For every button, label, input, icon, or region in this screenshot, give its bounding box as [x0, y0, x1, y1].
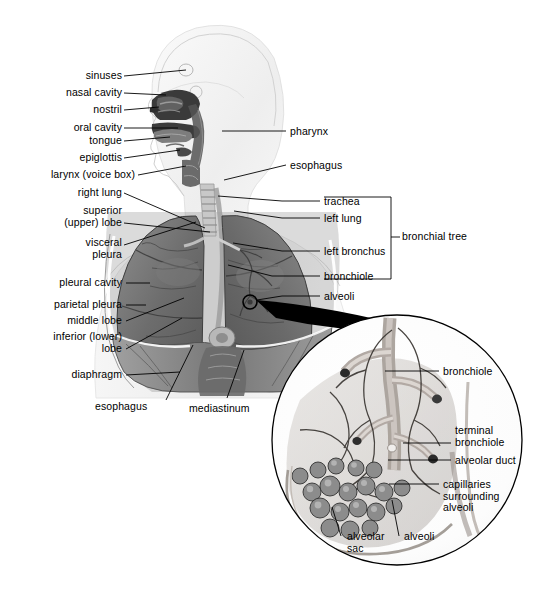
label-terminal-bronchiole: terminal bronchiole — [455, 425, 535, 448]
label-alveoli: alveoli — [404, 531, 452, 543]
label-visceral-pleura: visceral pleura — [30, 237, 122, 260]
label-bronchial-tree: bronchial tree — [402, 231, 467, 243]
label-nostril: nostril — [38, 104, 122, 116]
label-larynx-voice-box: larynx (voice box) — [25, 169, 135, 181]
label-inferior-lower-lobe: inferior (lower) lobe — [24, 331, 122, 354]
label-parietal-pleura: parietal pleura — [24, 299, 122, 311]
respiratory-system-diagram: sinusesnasal cavitynostriloral cavityton… — [0, 0, 546, 599]
label-right-lung: right lung — [28, 187, 122, 199]
label-alveolar-sac: alveolar sac — [347, 531, 399, 554]
label-nasal-cavity: nasal cavity — [18, 87, 122, 99]
label-epiglottis: epiglottis — [26, 152, 122, 164]
label-mediastinum: mediastinum — [189, 403, 265, 415]
label-superior-upper-lobe: superior (upper) lobe — [26, 205, 122, 228]
label-left-lung: left lung — [324, 213, 414, 225]
label-tongue: tongue — [34, 135, 122, 147]
label-capillaries-surrounding-alveoli: capillaries surrounding alveoli — [443, 479, 527, 514]
label-oral-cavity: oral cavity — [24, 122, 122, 134]
label-alveolar-duct: alveolar duct — [455, 455, 541, 467]
label-esophagus: esophagus — [95, 401, 165, 413]
label-left-bronchus: left bronchus — [324, 246, 414, 258]
label-alveoli: alveoli — [324, 291, 394, 303]
label-esophagus: esophagus — [290, 160, 360, 172]
label-bronchiole: bronchiole — [443, 366, 523, 378]
label-middle-lobe: middle lobe — [28, 315, 122, 327]
label-bronchiole: bronchiole — [324, 271, 414, 283]
label-sinuses: sinuses — [34, 70, 122, 82]
label-diaphragm: diaphragm — [28, 369, 122, 381]
label-pharynx: pharynx — [290, 126, 360, 138]
label-pleural-cavity: pleural cavity — [30, 277, 122, 289]
label-trachea: trachea — [324, 196, 414, 208]
